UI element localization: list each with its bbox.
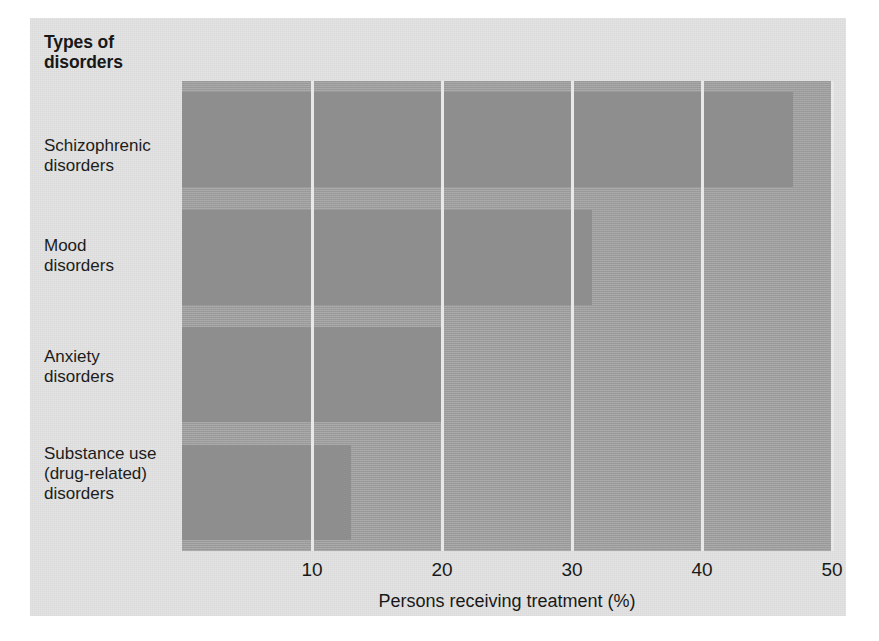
gridline-10 xyxy=(311,81,314,551)
category-label-anxiety-line-1: Anxiety xyxy=(44,347,100,366)
bar-mood-disorders xyxy=(182,210,592,305)
bar-substance-use-drug-related-disorders xyxy=(182,445,351,540)
category-label-mood: Mood disorders xyxy=(44,236,194,276)
x-tick-label-20: 20 xyxy=(431,559,452,581)
category-label-schizophrenic-line-2: disorders xyxy=(44,156,114,175)
category-label-schizophrenic: Schizophrenic disorders xyxy=(44,136,194,176)
category-label-anxiety-line-2: disorders xyxy=(44,367,114,386)
category-label-substance-use-line-3: disorders xyxy=(44,484,114,503)
category-label-anxiety: Anxiety disorders xyxy=(44,347,194,387)
gridline-50 xyxy=(831,81,834,551)
figure-panel: Schizophrenic Types of disorders Schizop… xyxy=(30,18,846,616)
category-label-schizophrenic-line-1: Schizophrenic xyxy=(44,136,151,155)
category-label-substance-use: Substance use (drug-related) disorders xyxy=(44,444,194,504)
category-label-mood-line-2: disorders xyxy=(44,256,114,275)
category-label-substance-use-line-1: Substance use xyxy=(44,444,156,463)
category-labels: Schizophrenic disorders Mood disorders A… xyxy=(44,18,194,616)
gridline-30 xyxy=(571,81,574,551)
x-tick-label-40: 40 xyxy=(691,559,712,581)
category-label-substance-use-line-2: (drug-related) xyxy=(44,464,147,483)
x-axis-title: Persons receiving treatment (%) xyxy=(182,591,832,612)
gridline-40 xyxy=(701,81,704,551)
plot-area xyxy=(182,81,832,551)
x-tick-label-50: 50 xyxy=(821,559,842,581)
x-tick-label-30: 30 xyxy=(561,559,582,581)
category-label-mood-line-1: Mood xyxy=(44,236,87,255)
gridline-20 xyxy=(441,81,444,551)
x-tick-label-10: 10 xyxy=(301,559,322,581)
